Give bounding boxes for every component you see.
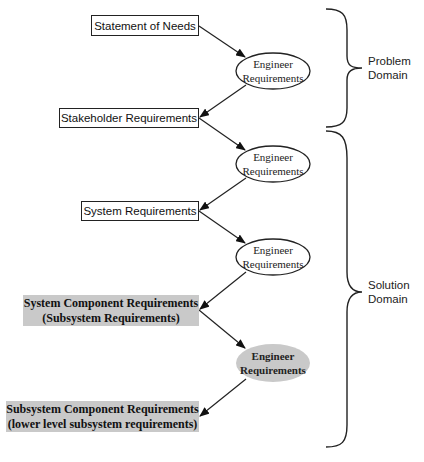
arrow-component-to-engineer4 (199, 310, 245, 348)
problem-domain-label: Problem Domain (368, 54, 411, 82)
arrow-engineer2-to-system (200, 178, 246, 210)
problem-domain-brace (326, 9, 362, 127)
arrow-engineer1-to-stakeholder (200, 85, 246, 117)
engineer-requirements-label-4: Engineer Requirements (235, 349, 311, 377)
system-component-requirements-line2: (Subsystem Requirements) (42, 311, 179, 326)
solution-domain-label: Solution Domain (368, 278, 410, 306)
stakeholder-requirements-label: Stakeholder Requirements (61, 112, 197, 124)
system-component-requirements-box: System Component Requirements (Subsystem… (23, 295, 199, 326)
engineer-label-line2: Requirements (235, 257, 311, 271)
engineer-requirements-label-1: Engineer Requirements (235, 57, 311, 85)
arrow-needs-to-engineer1 (199, 26, 245, 57)
subsystem-component-requirements-line2: (lower level subsystem requirements) (8, 417, 198, 432)
problem-domain-line1: Problem (368, 54, 411, 68)
problem-domain-line2: Domain (368, 68, 411, 82)
solution-domain-line2: Domain (368, 292, 410, 306)
arrow-stakeholder-to-engineer2 (199, 118, 245, 150)
arrow-engineer3-to-component (200, 272, 246, 309)
arrow-system-to-engineer3 (199, 211, 245, 243)
statement-of-needs-label: Statement of Needs (94, 20, 196, 32)
subsystem-component-requirements-box: Subsystem Component Requirements (lower … (6, 401, 199, 432)
subsystem-component-requirements-line1: Subsystem Component Requirements (6, 402, 198, 417)
engineer-label-line1: Engineer (235, 349, 311, 363)
solution-domain-brace (326, 131, 362, 447)
solution-domain-line1: Solution (368, 278, 410, 292)
system-requirements-box: System Requirements (81, 201, 199, 221)
system-requirements-label: System Requirements (83, 205, 196, 217)
engineer-requirements-label-2: Engineer Requirements (235, 150, 311, 178)
engineer-label-line1: Engineer (235, 243, 311, 257)
stakeholder-requirements-box: Stakeholder Requirements (59, 108, 199, 128)
engineer-label-line2: Requirements (235, 71, 311, 85)
statement-of-needs-box: Statement of Needs (91, 15, 199, 36)
engineer-label-line1: Engineer (235, 150, 311, 164)
engineer-label-line1: Engineer (235, 57, 311, 71)
diagram-graphics (0, 0, 424, 462)
engineer-label-line2: Requirements (235, 363, 311, 377)
arrow-engineer4-to-subsystem (200, 379, 246, 416)
engineer-requirements-label-3: Engineer Requirements (235, 243, 311, 271)
requirements-flow-diagram: Statement of Needs Stakeholder Requireme… (0, 0, 424, 462)
engineer-label-line2: Requirements (235, 164, 311, 178)
system-component-requirements-line1: System Component Requirements (24, 296, 198, 311)
